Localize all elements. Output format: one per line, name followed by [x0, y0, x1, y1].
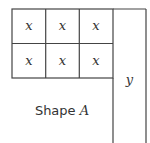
shape-label: Shape A	[35, 103, 89, 118]
shape-label-letter: A	[79, 103, 89, 118]
cell-r1c1: x	[25, 18, 33, 33]
shape-label-prefix: Shape	[35, 103, 80, 118]
cell-r2c1: x	[25, 53, 33, 68]
cell-r1c3: x	[92, 18, 100, 33]
cell-r2c2: x	[59, 53, 67, 68]
side-bar-label: y	[125, 72, 134, 87]
shape-a-diagram: x x x x x x y Shape A	[0, 0, 150, 143]
cell-r1c2: x	[59, 18, 67, 33]
cell-r2c3: x	[92, 53, 100, 68]
